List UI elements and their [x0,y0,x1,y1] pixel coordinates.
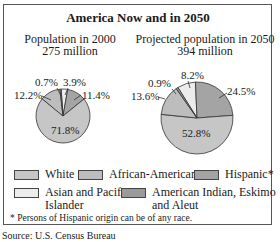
label-2000-hispanic: 11.4% [82,89,110,101]
label-2050-asian: 8.2% [181,69,204,81]
label-2000-white: 71.8% [51,124,79,136]
legend-label-asian-line2: Islander [45,199,130,212]
legend-label-white: White [45,168,74,181]
legend-white: White [14,168,74,181]
source-credit: Source: U.S. Census Bureau [2,230,116,241]
legend-swatch-hispanic [194,170,219,180]
footnote: * Persons of Hispanic origin can be of a… [10,213,192,223]
pie-2050 [161,82,233,154]
legend-swatch-african-american [78,170,103,180]
legend-label-american-indian-line2: and Aleut [152,199,276,212]
legend-label-african-american: African-American [109,168,197,181]
legend-american-indian: American Indian, Eskimo and Aleut [121,186,276,212]
legend-swatch-american-indian [121,188,146,198]
label-2050-hispanic: 24.5% [227,85,255,97]
legend-swatch-asian [14,188,39,198]
label-2000-asian: 3.9% [63,76,86,88]
legend-label-hispanic: Hispanic* [225,168,274,181]
legend-swatch-white [14,170,39,180]
label-2000-american-indian: 0.7% [35,76,58,88]
label-2050-american-indian: 0.9% [148,77,171,89]
label-2050-white: 52.8% [182,127,210,139]
legend-hispanic: Hispanic* [194,168,274,181]
label-2050-african-american: 13.6% [131,90,159,102]
legend-african-american: African-American [78,168,197,181]
legend-asian: Asian and Pacific Islander [14,186,130,212]
label-2000-african-american: 12.2% [14,89,42,101]
